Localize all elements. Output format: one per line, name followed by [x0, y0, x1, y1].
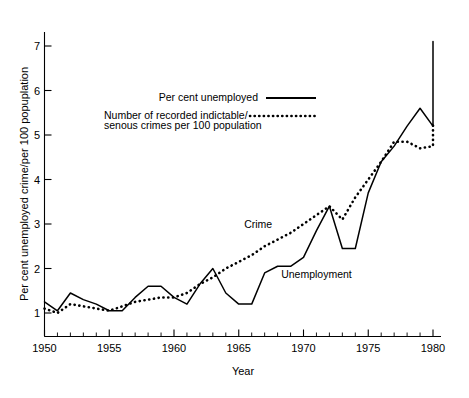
- y-tick-label: 4: [34, 174, 40, 186]
- x-tick-label: 1980: [421, 342, 445, 354]
- y-tick-label: 1: [34, 307, 40, 319]
- y-axis-title: Per cent unemployed crime/per 100 popupl…: [18, 67, 30, 301]
- x-tick-label: 1975: [356, 342, 380, 354]
- y-tick-label: 2: [34, 263, 40, 275]
- y-tick-label: 3: [34, 218, 40, 230]
- x-tick-label: 1955: [97, 342, 121, 354]
- x-tick-label: 1960: [162, 342, 186, 354]
- legend-label-unemployed: Per cent unemployed: [159, 91, 258, 103]
- y-tick-label: 7: [34, 40, 40, 52]
- x-tick-label: 1970: [291, 342, 315, 354]
- legend-label-crime-line2: senous crimes per 100 population: [104, 119, 262, 131]
- series-inline-label: Unemployment: [281, 268, 352, 280]
- chart-figure: 1234567 1950195519601965197019751980 Yea…: [0, 0, 469, 398]
- series-inline-label: Crime: [244, 218, 272, 230]
- x-tick-label: 1950: [32, 342, 56, 354]
- x-axis-title: Year: [232, 365, 255, 377]
- y-tick-label: 5: [34, 129, 40, 141]
- y-tick-label: 6: [34, 85, 40, 97]
- x-tick-label: 1965: [227, 342, 251, 354]
- chart-background: [0, 0, 469, 398]
- line-chart: 1234567 1950195519601965197019751980 Yea…: [0, 0, 469, 398]
